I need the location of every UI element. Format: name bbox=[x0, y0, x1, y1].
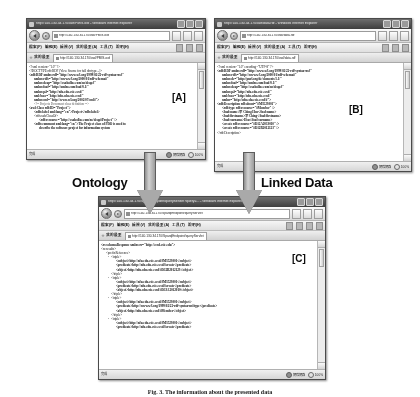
window-controls[interactable] bbox=[383, 20, 409, 28]
address-bar[interactable]: http://140.130.34.170/owl/data.rdf bbox=[240, 31, 376, 41]
menu-tools[interactable]: 工具(T) bbox=[172, 224, 185, 228]
browser-tab[interactable]: http://140.130.34.170/owl/data.rdf bbox=[241, 54, 299, 62]
scroll-up-button[interactable] bbox=[198, 63, 205, 70]
scroll-track[interactable] bbox=[404, 89, 411, 154]
stop-icon[interactable] bbox=[303, 209, 312, 219]
menu-edit[interactable]: 編輯(E) bbox=[117, 224, 130, 228]
search-icon[interactable] bbox=[306, 222, 313, 230]
menu-file[interactable]: 檔案(F) bbox=[29, 46, 42, 50]
zoom-control[interactable]: 100% bbox=[394, 164, 409, 170]
print-icon[interactable] bbox=[296, 222, 303, 230]
search-input[interactable] bbox=[194, 31, 203, 41]
forward-button[interactable] bbox=[42, 32, 50, 40]
window-controls[interactable] bbox=[297, 198, 323, 206]
scroll-up-button[interactable] bbox=[404, 63, 411, 70]
menu-favorites[interactable]: 我的最愛(A) bbox=[76, 46, 97, 50]
favorites-bar[interactable]: 我的最愛 http://140.130.34.170/owl/data.rdf bbox=[215, 53, 411, 63]
menu-help[interactable]: 說明(H) bbox=[188, 224, 201, 228]
menu-bar[interactable]: 檔案(F) 編輯(E) 檢視(V) 我的最愛(A) 工具(T) 說明(H) bbox=[99, 221, 325, 231]
address-bar[interactable]: http://140.130.34.170/owl/PMIS.owl bbox=[52, 31, 170, 41]
maximize-button[interactable] bbox=[186, 20, 194, 28]
close-button[interactable] bbox=[401, 20, 409, 28]
refresh-icon[interactable] bbox=[292, 209, 301, 219]
minimize-button[interactable] bbox=[177, 20, 185, 28]
menu-tools[interactable]: 工具(T) bbox=[288, 46, 301, 50]
browser-tab[interactable]: http://140.130.34.170/owl/PMIS.owl bbox=[53, 54, 113, 62]
scroll-up-button[interactable] bbox=[318, 241, 325, 248]
tools-icon[interactable] bbox=[402, 44, 409, 52]
search-input[interactable] bbox=[400, 31, 409, 41]
search-input[interactable] bbox=[314, 209, 323, 219]
menu-help[interactable]: 說明(H) bbox=[116, 46, 129, 50]
tools-icon[interactable] bbox=[196, 44, 203, 52]
home-icon[interactable] bbox=[382, 44, 389, 52]
browser-window-ontology[interactable]: http://140.130.34.170/owl/PMIS.owl - Win… bbox=[26, 18, 206, 160]
menu-favorites[interactable]: 我的最愛(A) bbox=[148, 224, 169, 228]
maximize-button[interactable] bbox=[306, 198, 314, 206]
browser-window-sparql-results[interactable]: http://140.130.34.170/SparqlEndpoint/que… bbox=[98, 196, 326, 380]
print-icon[interactable] bbox=[186, 44, 193, 52]
maximize-button[interactable] bbox=[392, 20, 400, 28]
scroll-track[interactable] bbox=[198, 89, 205, 142]
menu-help[interactable]: 說明(H) bbox=[304, 46, 317, 50]
refresh-icon[interactable] bbox=[172, 31, 181, 41]
globe-icon bbox=[166, 152, 172, 158]
stop-icon[interactable] bbox=[183, 31, 192, 41]
favorites-bar[interactable]: 我的最愛 http://140.130.34.170/SparqlEndpoin… bbox=[99, 231, 325, 241]
home-icon[interactable] bbox=[286, 222, 293, 230]
menu-view[interactable]: 檢視(V) bbox=[60, 46, 73, 50]
arrow-shaft bbox=[144, 152, 156, 192]
favorites-bar[interactable]: 我的最愛 http://140.130.34.170/owl/PMIS.owl bbox=[27, 53, 205, 63]
status-bar: 完成 網際網路 100% bbox=[27, 149, 205, 159]
window-controls[interactable] bbox=[177, 20, 203, 28]
scroll-track[interactable] bbox=[318, 267, 325, 362]
back-button[interactable] bbox=[29, 30, 40, 41]
print-icon[interactable] bbox=[392, 44, 399, 52]
menu-bar[interactable]: 檔案(F) 編輯(E) 檢視(V) 我的最愛(A) 工具(T) 說明(H) bbox=[215, 43, 411, 53]
vertical-scrollbar[interactable] bbox=[403, 63, 411, 161]
favorites-button[interactable]: 我的最愛 bbox=[101, 234, 122, 238]
menu-favorites[interactable]: 我的最愛(A) bbox=[264, 46, 285, 50]
minimize-button[interactable] bbox=[383, 20, 391, 28]
menu-file[interactable]: 檔案(F) bbox=[217, 46, 230, 50]
zoom-icon bbox=[394, 164, 400, 170]
menu-view[interactable]: 檢視(V) bbox=[248, 46, 261, 50]
forward-button[interactable] bbox=[230, 32, 238, 40]
navigation-bar[interactable]: http://140.130.34.170/SparqlEndpoint/que… bbox=[99, 207, 325, 221]
favorites-button[interactable]: 我的最愛 bbox=[217, 56, 238, 60]
down-arrow-ontology-icon bbox=[137, 152, 163, 214]
scroll-down-button[interactable] bbox=[404, 154, 411, 161]
zoom-control[interactable]: 100% bbox=[188, 152, 203, 158]
scroll-thumb[interactable] bbox=[405, 71, 410, 89]
navigation-bar[interactable]: http://140.130.34.170/owl/data.rdf bbox=[215, 29, 411, 43]
favorites-button[interactable]: 我的最愛 bbox=[29, 56, 50, 60]
back-button[interactable] bbox=[101, 208, 112, 219]
menu-bar[interactable]: 檔案(F) 編輯(E) 檢視(V) 我的最愛(A) 工具(T) 說明(H) bbox=[27, 43, 205, 53]
menu-view[interactable]: 檢視(V) bbox=[132, 224, 145, 228]
page-icon bbox=[242, 34, 246, 38]
home-icon[interactable] bbox=[176, 44, 183, 52]
vertical-scrollbar[interactable] bbox=[317, 241, 325, 369]
scroll-thumb[interactable] bbox=[199, 71, 204, 89]
tools-icon[interactable] bbox=[316, 222, 323, 230]
stop-icon[interactable] bbox=[389, 31, 398, 41]
menu-tools[interactable]: 工具(T) bbox=[100, 46, 113, 50]
scroll-thumb[interactable] bbox=[319, 249, 324, 267]
zoom-control[interactable]: 100% bbox=[308, 372, 323, 378]
vertical-scrollbar[interactable] bbox=[197, 63, 205, 149]
minimize-button[interactable] bbox=[297, 198, 305, 206]
browser-tab[interactable]: http://140.130.34.170/SparqlEndpoint/que… bbox=[125, 232, 207, 240]
close-button[interactable] bbox=[315, 198, 323, 206]
menu-edit[interactable]: 編輯(E) bbox=[233, 46, 246, 50]
refresh-icon[interactable] bbox=[378, 31, 387, 41]
arrow-head bbox=[236, 190, 262, 214]
scroll-down-button[interactable] bbox=[198, 142, 205, 149]
scroll-down-button[interactable] bbox=[318, 362, 325, 369]
forward-button[interactable] bbox=[114, 210, 122, 218]
menu-file[interactable]: 檔案(F) bbox=[101, 224, 114, 228]
browser-window-linked-data[interactable]: http://140.130.34.170/owl/data.rdf - Win… bbox=[214, 18, 412, 172]
navigation-bar[interactable]: http://140.130.34.170/owl/PMIS.owl bbox=[27, 29, 205, 43]
close-button[interactable] bbox=[195, 20, 203, 28]
back-button[interactable] bbox=[217, 30, 228, 41]
menu-edit[interactable]: 編輯(E) bbox=[45, 46, 58, 50]
